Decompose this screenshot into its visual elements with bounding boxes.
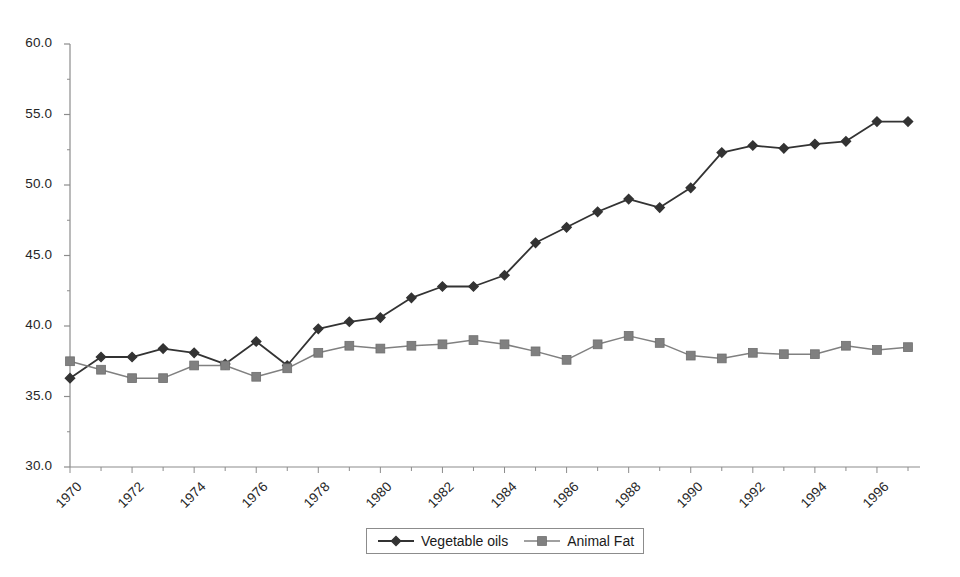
- y-tick-label: 40.0: [8, 317, 52, 332]
- data-point-marker: Vegetable oils 1974: 38.1: [190, 348, 199, 357]
- data-point-marker: Animal Fat 1984: 38.7: [500, 340, 509, 349]
- y-tick-label: 60.0: [8, 35, 52, 50]
- data-point-marker: Animal Fat 1982: 38.7: [438, 340, 447, 349]
- data-point-marker: Vegetable oils 1993: 52.6: [779, 144, 788, 153]
- data-point-marker: Vegetable oils 1995: 53.1: [841, 137, 850, 146]
- data-point-marker: Animal Fat 1996: 38.3: [873, 346, 882, 355]
- diamond-marker: [376, 533, 416, 549]
- data-point-marker: Animal Fat 1989: 38.8: [655, 339, 664, 348]
- data-point-marker: Vegetable oils 1992: 52.8: [748, 141, 757, 150]
- data-point-marker: Vegetable oils 1988: 49: [624, 195, 633, 204]
- series-line: [70, 122, 908, 379]
- data-point-marker: Vegetable oils 1982: 42.8: [438, 282, 447, 291]
- data-point-marker: Vegetable oils 1994: 52.9: [810, 140, 819, 149]
- data-point-marker: Animal Fat 1979: 38.6: [345, 341, 354, 350]
- data-point-marker: Animal Fat 1993: 38: [779, 350, 788, 359]
- data-point-marker: Vegetable oils 1981: 42: [407, 293, 416, 302]
- data-point-marker: Vegetable oils 1986: 47: [562, 223, 571, 232]
- data-point-marker: Vegetable oils 1989: 48.4: [655, 203, 664, 212]
- data-point-marker: Vegetable oils 1972: 37.8: [127, 352, 136, 361]
- data-point-marker: Animal Fat 1980: 38.4: [376, 344, 385, 353]
- data-point-marker: Animal Fat 1981: 38.6: [407, 341, 416, 350]
- data-point-marker: Vegetable oils 1979: 40.3: [345, 317, 354, 326]
- legend-item-1: Vegetable oils: [376, 533, 508, 549]
- data-point-marker: Vegetable oils 1973: 38.4: [159, 344, 168, 353]
- data-point-marker: Animal Fat 1976: 36.4: [252, 372, 261, 381]
- data-point-marker: Vegetable oils 1996: 54.5: [872, 117, 881, 126]
- data-point-marker: Animal Fat 1997: 38.5: [904, 343, 913, 352]
- data-point-marker: Animal Fat 1995: 38.6: [842, 341, 851, 350]
- data-point-marker: Animal Fat 1971: 36.9: [97, 365, 106, 374]
- data-point-marker: Animal Fat 1978: 38.1: [314, 348, 323, 357]
- data-point-marker: Vegetable oils 1980: 40.6: [376, 313, 385, 322]
- legend-label: Vegetable oils: [421, 533, 508, 549]
- y-tick-label: 35.0: [8, 388, 52, 403]
- data-point-marker: Animal Fat 1974: 37.2: [190, 361, 199, 370]
- data-point-marker: Animal Fat 1990: 37.9: [686, 351, 695, 360]
- series-2: Animal Fat 1970: 37.5Animal Fat 1971: 36…: [66, 331, 913, 382]
- line-chart: Vegetable oils 1970: 36.3Vegetable oils …: [0, 0, 960, 577]
- data-point-marker: Animal Fat 1983: 39: [469, 336, 478, 345]
- data-point-marker: Animal Fat 1985: 38.2: [531, 347, 540, 356]
- y-tick-label: 45.0: [8, 247, 52, 262]
- data-point-marker: Animal Fat 1975: 37.2: [221, 361, 230, 370]
- square-marker: [522, 533, 562, 549]
- data-point-marker: Vegetable oils 1997: 54.5: [903, 117, 912, 126]
- data-point-marker: Animal Fat 1991: 37.7: [717, 354, 726, 363]
- data-point-marker: Vegetable oils 1983: 42.8: [469, 282, 478, 291]
- y-tick-label: 55.0: [8, 106, 52, 121]
- data-point-marker: Animal Fat 1973: 36.3: [159, 374, 168, 383]
- legend-label: Animal Fat: [567, 533, 634, 549]
- legend-item-2: Animal Fat: [522, 533, 634, 549]
- y-tick-label: 30.0: [8, 458, 52, 473]
- series-layer: Vegetable oils 1970: 36.3Vegetable oils …: [65, 117, 912, 383]
- data-point-marker: Animal Fat 1992: 38.1: [748, 348, 757, 357]
- chart-legend: Vegetable oilsAnimal Fat: [366, 528, 644, 554]
- data-point-marker: Animal Fat 1987: 38.7: [593, 340, 602, 349]
- data-point-marker: Animal Fat 1988: 39.3: [624, 331, 633, 340]
- data-point-marker: Animal Fat 1970: 37.5: [66, 357, 75, 366]
- data-point-marker: Animal Fat 1986: 37.6: [562, 355, 571, 364]
- axis-layer: [64, 44, 920, 473]
- data-point-marker: Animal Fat 1994: 38: [810, 350, 819, 359]
- data-point-marker: Vegetable oils 1987: 48.1: [593, 207, 602, 216]
- data-point-marker: Animal Fat 1972: 36.3: [128, 374, 137, 383]
- data-point-marker: Animal Fat 1977: 37: [283, 364, 292, 373]
- y-tick-label: 50.0: [8, 176, 52, 191]
